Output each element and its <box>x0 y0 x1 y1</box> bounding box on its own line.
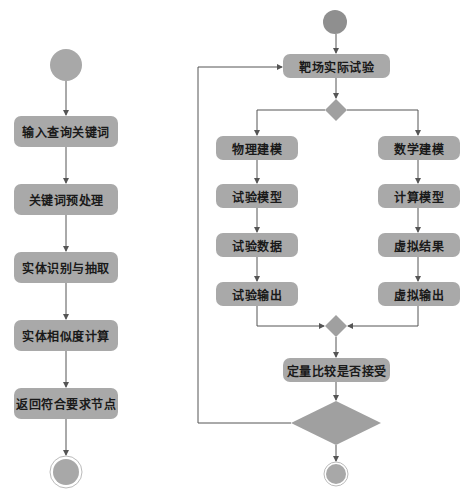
accept-decision-diamond <box>291 401 381 445</box>
merge-diamond <box>325 315 347 337</box>
right-start-node <box>323 10 347 34</box>
math-node-modeling: 数学建模 <box>378 136 460 160</box>
fork-decision-diamond <box>325 99 347 121</box>
left-node-return-nodes: 返回符合要求节点 <box>14 388 118 419</box>
math-node-virtual-output: 虚拟输出 <box>378 282 460 306</box>
physical-node-modeling: 物理建模 <box>216 136 298 160</box>
right-node-quantitative-compare: 定量比较是否接受 <box>283 358 390 382</box>
right-node-range-test: 靶场实际试验 <box>283 54 390 78</box>
math-node-virtual-result: 虚拟结果 <box>378 233 460 257</box>
left-node-keyword-preprocess: 关键词预处理 <box>14 184 118 215</box>
left-node-entity-recognition: 实体识别与抽取 <box>14 252 118 283</box>
right-end-node <box>324 462 348 486</box>
physical-node-test-model: 试验模型 <box>216 184 298 208</box>
left-node-entity-similarity: 实体相似度计算 <box>14 320 118 351</box>
left-end-node <box>50 456 82 488</box>
left-node-input-keyword: 输入查询关键词 <box>14 116 118 147</box>
math-node-compute-model: 计算模型 <box>378 184 460 208</box>
physical-node-test-data: 试验数据 <box>216 233 298 257</box>
left-start-node <box>50 49 82 81</box>
physical-node-test-output: 试验输出 <box>216 282 298 306</box>
